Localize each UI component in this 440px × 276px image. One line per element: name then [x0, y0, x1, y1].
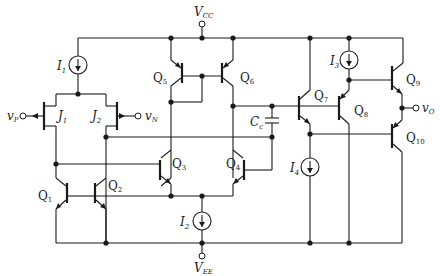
vp-label: vP: [7, 109, 19, 124]
transistor-q1: [53, 161, 160, 243]
vp-terminal: [20, 113, 26, 119]
vcc-rail: [78, 21, 403, 41]
cc-label: Cc: [250, 115, 263, 131]
vcc-label: VCC: [194, 5, 214, 20]
vo-label: vO: [422, 101, 435, 116]
j1-label: J1: [55, 109, 67, 125]
current-source-i4: [301, 134, 319, 243]
vo-terminal: [413, 105, 419, 111]
q8-label: Q8: [354, 104, 368, 119]
jfet-j1: [26, 94, 78, 164]
vee-terminal: [199, 253, 205, 259]
q5-label: Q5: [153, 71, 167, 86]
q3-label: Q3: [172, 157, 186, 172]
capacitor-cc: [265, 103, 279, 137]
transistor-q10: [349, 108, 402, 243]
transistor-q8: [339, 80, 392, 243]
current-source-i3: [340, 38, 358, 83]
q9-label: Q9: [406, 73, 420, 88]
q1-label: Q1: [38, 189, 52, 204]
vn-terminal: [135, 113, 141, 119]
i4-label: I4: [289, 161, 299, 177]
q4-label: Q4: [226, 157, 241, 172]
j2-label: J2: [89, 109, 102, 125]
vee-rail: [56, 240, 402, 259]
q6-label: Q6: [240, 71, 255, 86]
vcc-terminal: [199, 21, 205, 27]
q10-label: Q10: [406, 131, 425, 146]
i3-label: I3: [329, 54, 340, 70]
vn-label: vN: [145, 109, 159, 124]
transistor-q7: [299, 38, 349, 137]
vee-label: VEE: [194, 261, 213, 276]
i2-label: I2: [179, 215, 190, 231]
i1-label: I1: [56, 59, 66, 75]
op-amp-schematic: VCC I1 vP J1 vN J2: [0, 0, 440, 276]
current-source-i1: [69, 38, 87, 97]
q7-label: Q7: [314, 89, 328, 104]
q2-label: Q2: [108, 179, 122, 194]
